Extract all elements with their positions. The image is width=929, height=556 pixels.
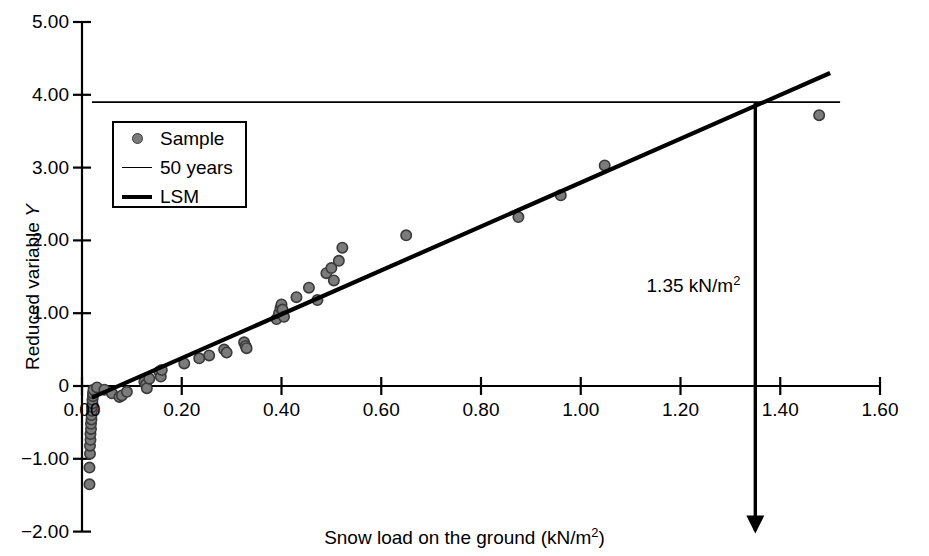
x-axis-tick-label: 0.60 (341, 400, 421, 419)
legend-item-label: LSM (160, 186, 199, 208)
arrow-annotation-value: 1.35 kN/m (647, 275, 734, 296)
axes (73, 22, 880, 532)
x-axis-title-tail: ) (599, 527, 605, 548)
x-axis-title-superscript: 2 (591, 525, 598, 540)
legend-key (114, 133, 160, 144)
x-axis-tick-label: 0.00 (42, 400, 122, 419)
y-axis-title-variable: Y (22, 204, 43, 217)
y-axis-tick-label: 3.00 (32, 158, 69, 177)
data-point (814, 110, 824, 120)
data-point (401, 230, 411, 240)
y-axis-tick-label: −1.00 (21, 449, 69, 468)
data-point (334, 256, 344, 266)
x-axis-tick-label: 0.40 (242, 400, 322, 419)
legend-item-50-years: 50 years (114, 153, 245, 182)
data-point (337, 242, 347, 252)
data-point (84, 479, 94, 489)
legend-item-label: Sample (160, 128, 224, 150)
data-point (84, 462, 94, 472)
x-axis-title: Snow load on the ground (kN/m2) (0, 525, 929, 549)
data-point (329, 275, 339, 285)
data-point (241, 343, 251, 353)
y-axis-tick-label: 0 (58, 376, 69, 395)
annotation-arrow (746, 102, 764, 534)
x-axis-tick-label: 1.20 (641, 400, 721, 419)
y-axis-tick-label: 4.00 (32, 85, 69, 104)
data-point (194, 353, 204, 363)
legend-item-sample: Sample (114, 124, 245, 153)
x-axis-tick-label: 1.40 (740, 400, 820, 419)
y-axis-tick-label: 5.00 (32, 12, 69, 31)
x-axis-title-text: Snow load on the ground (kN/m (324, 527, 591, 548)
x-axis-tick-label: 1.00 (541, 400, 621, 419)
x-axis-tick-label: 0.80 (441, 400, 521, 419)
data-point (304, 283, 314, 293)
chart-plot-area (0, 0, 929, 556)
legend-thin-line-icon (122, 167, 152, 168)
legend-marker-icon (132, 133, 143, 144)
arrow-annotation-label: 1.35 kN/m2 (630, 273, 740, 297)
y-axis-title: Reduced variable Y (22, 204, 44, 370)
legend-thick-line-icon (122, 195, 152, 199)
y-axis-title-text: Reduced variable (22, 217, 43, 370)
legend-item-label: 50 years (160, 157, 233, 179)
chart-figure: 5.004.003.002.001.000−1.00−2.00 0.000.20… (0, 0, 929, 556)
chart-legend: Sample50 yearsLSM (112, 121, 247, 208)
legend-key (114, 195, 160, 199)
arrow-annotation-superscript: 2 (733, 273, 740, 288)
data-point (204, 350, 214, 360)
data-point (291, 292, 301, 302)
x-axis-tick-label: 1.60 (840, 400, 920, 419)
data-point (122, 387, 132, 397)
x-axis-tick-label: 0.20 (142, 400, 222, 419)
legend-key (114, 167, 160, 168)
data-point (221, 347, 231, 357)
legend-item-lsm: LSM (114, 182, 245, 211)
